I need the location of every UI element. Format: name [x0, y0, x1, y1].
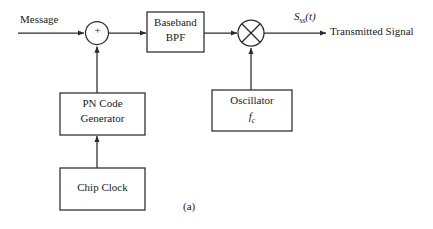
oscillator-frequency-subscript: c: [252, 116, 255, 125]
transmitted-signal-label: Transmitted Signal: [330, 26, 414, 38]
baseband-bpf-label-line2: BPF: [147, 32, 204, 44]
pn-code-generator-label-line1: PN Code: [60, 98, 145, 110]
signal-symbol-arg: (t): [305, 10, 315, 22]
figure-caption: (a): [183, 201, 195, 213]
transmitted-signal-symbol: Sss(t): [294, 11, 316, 25]
chip-clock-label: Chip Clock: [60, 182, 145, 194]
oscillator-label: Oscillator: [212, 95, 292, 107]
message-label: Message: [20, 14, 59, 26]
oscillator-frequency-label: fc: [212, 111, 292, 125]
summing-junction-plus-symbol: +: [91, 25, 104, 37]
block-diagram-figure: Message + Baseband BPF Sss(t) Transmitte…: [0, 0, 433, 229]
pn-code-generator-label-line2: Generator: [60, 113, 145, 125]
baseband-bpf-label-line1: Baseband: [147, 17, 204, 29]
